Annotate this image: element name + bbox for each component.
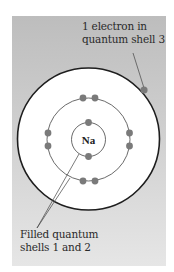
nucleus-symbol: Na xyxy=(82,134,96,146)
electron xyxy=(85,119,92,126)
shell-3-label-line-1: 1 electron in xyxy=(82,20,165,33)
filled-shells-label-line-1: Filled quantum xyxy=(20,228,98,241)
shell-3-electron xyxy=(140,86,147,93)
electron xyxy=(80,95,87,102)
electron xyxy=(45,143,52,150)
electron xyxy=(85,153,92,160)
filled-shells-label-line-2: shells 1 and 2 xyxy=(20,241,98,254)
electron xyxy=(126,143,133,150)
electron xyxy=(80,178,87,185)
filled-shells-label: Filled quantum shells 1 and 2 xyxy=(20,228,98,254)
shell-3-label: 1 electron in quantum shell 3 xyxy=(82,20,165,46)
electron xyxy=(126,130,133,137)
leader-line-shell-3 xyxy=(133,53,144,88)
electron xyxy=(92,178,99,185)
shell-3-label-line-2: quantum shell 3 xyxy=(82,33,165,46)
electron xyxy=(45,130,52,137)
electron xyxy=(92,95,99,102)
